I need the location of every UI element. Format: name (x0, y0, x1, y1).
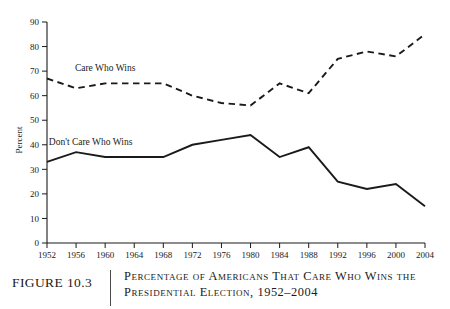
x-tick-label: 1996 (358, 250, 377, 260)
figure-caption-block: FIGURE 10.3 Percentage of Americans That… (0, 268, 450, 309)
x-tick-label: 2000 (387, 250, 406, 260)
x-tick-label: 1952 (38, 250, 56, 260)
caption-divider (110, 270, 111, 306)
x-tick-label: 1964 (125, 250, 144, 260)
y-tick-label: 30 (30, 165, 40, 175)
x-tick-label: 1988 (300, 250, 319, 260)
y-tick-label: 70 (30, 66, 40, 76)
x-tick-label: 2004 (416, 250, 435, 260)
y-tick-label: 20 (30, 189, 40, 199)
figure-caption-text: Percentage of Americans That Care Who Wi… (124, 269, 446, 300)
y-tick-label: 50 (30, 115, 40, 125)
x-tick-label: 1980 (242, 250, 261, 260)
x-axis-ticks: 1952195619601964196819721976198019841988… (38, 243, 435, 260)
y-axis-ticks: 0102030405060708090 (30, 17, 47, 248)
x-tick-label: 1992 (329, 250, 347, 260)
x-tick-label: 1984 (271, 250, 290, 260)
x-tick-label: 1960 (96, 250, 115, 260)
y-tick-label: 0 (35, 238, 40, 248)
series-annotations: Care Who WinsDon't Care Who Wins (49, 63, 136, 147)
x-tick-label: 1976 (212, 250, 231, 260)
y-tick-label: 60 (30, 91, 40, 101)
line-chart-svg: 0102030405060708090 19521956196019641968… (0, 0, 450, 266)
series-inline-label: Don't Care Who Wins (49, 137, 133, 147)
x-tick-label: 1972 (183, 250, 201, 260)
series-inline-label: Care Who Wins (75, 63, 136, 73)
data-series-group (47, 34, 425, 206)
x-tick-label: 1956 (67, 250, 86, 260)
y-tick-label: 90 (30, 17, 40, 27)
y-tick-label: 40 (30, 140, 40, 150)
y-tick-label: 10 (30, 214, 40, 224)
caption-line-2: Presidential Election, 1952–2004 (124, 285, 446, 301)
figure-container: 0102030405060708090 19521956196019641968… (0, 0, 450, 309)
y-axis-group: 0102030405060708090 (30, 17, 47, 248)
chart-plot-area: 0102030405060708090 19521956196019641968… (0, 0, 450, 266)
figure-number-label: FIGURE 10.3 (12, 275, 92, 291)
y-axis-title: Percent (14, 126, 24, 153)
x-axis-group: 1952195619601964196819721976198019841988… (38, 243, 435, 260)
caption-line-1: Percentage of Americans That Care Who Wi… (124, 269, 446, 285)
x-tick-label: 1968 (154, 250, 173, 260)
y-tick-label: 80 (30, 42, 40, 52)
